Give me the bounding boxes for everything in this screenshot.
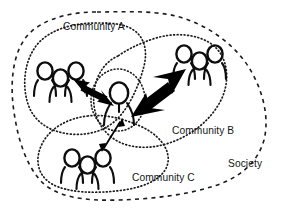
- label-community-c: Community C: [132, 172, 195, 183]
- people-group-c: [61, 149, 114, 189]
- relation-arrow-community-a: [73, 79, 114, 106]
- relation-arrow-community-b: [131, 69, 186, 117]
- label-community-a: Community A: [63, 21, 125, 32]
- relation-arrow-community-c: [99, 118, 125, 152]
- diagram-canvas: Community A Community B Community C Soci…: [0, 0, 282, 211]
- label-community-b: Community B: [172, 125, 234, 136]
- individual-boundary: [91, 69, 145, 131]
- label-society: Society: [228, 158, 263, 169]
- diagram-illustration: Community A Community B Community C Soci…: [0, 0, 282, 211]
